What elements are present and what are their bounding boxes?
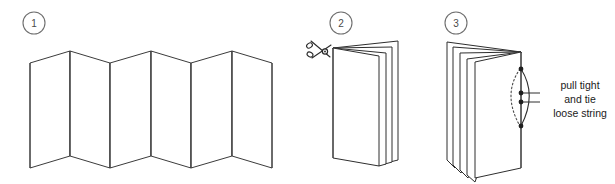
string-hole-3 bbox=[519, 100, 524, 105]
step-3-number: 3 bbox=[453, 18, 459, 29]
folded-booklet-illustration bbox=[333, 41, 398, 166]
accordion-panel-1 bbox=[30, 51, 70, 168]
annotation-line-1: pull tight bbox=[560, 79, 599, 91]
annotation-line-2: and tie bbox=[564, 93, 596, 105]
scissors-pivot-dot bbox=[324, 51, 326, 53]
diagram-canvas: 1 bbox=[0, 0, 615, 184]
instruction-diagram: 1 bbox=[0, 0, 615, 184]
accordion-panel-2 bbox=[70, 51, 110, 168]
accordion-panel-3 bbox=[110, 51, 151, 168]
annotation-line-3: loose string bbox=[553, 107, 607, 119]
step-3-badge: 3 bbox=[445, 12, 467, 34]
accordion-panel-5 bbox=[191, 51, 232, 168]
accordion-fold-illustration bbox=[30, 51, 272, 168]
accordion-panel-6 bbox=[232, 51, 272, 168]
bound-front-cover bbox=[475, 52, 521, 178]
step-1-number: 1 bbox=[31, 18, 37, 29]
string-hole-1 bbox=[519, 67, 524, 72]
bound-booklet-illustration bbox=[447, 42, 521, 182]
string-hole-4 bbox=[519, 124, 524, 129]
string-hole-2 bbox=[519, 91, 524, 96]
accordion-panel-4 bbox=[151, 51, 191, 168]
step-2-badge: 2 bbox=[330, 12, 352, 34]
step-2-number: 2 bbox=[338, 18, 344, 29]
step-1-badge: 1 bbox=[23, 12, 45, 34]
booklet-front-cover bbox=[333, 48, 379, 166]
